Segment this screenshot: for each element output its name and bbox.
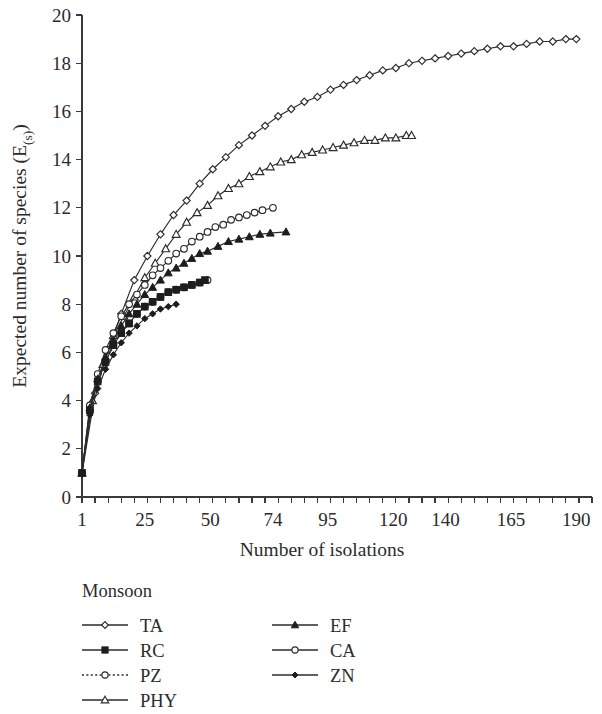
figure-container: 02468101214161820125507495120140165190 N…	[0, 0, 602, 714]
legend-title: Monsoon	[82, 581, 152, 601]
legend-marker-CA	[292, 647, 298, 653]
legend-item-ZN[interactable]: ZN	[272, 666, 355, 686]
y-axis-title: Expected number of species (E(s))	[9, 124, 35, 387]
rarefaction-curve-chart: 02468101214161820125507495120140165190 N…	[0, 0, 602, 714]
x-tick-label: 1	[77, 509, 87, 530]
series-markers-CA	[79, 205, 277, 477]
legend-label-TA: TA	[140, 616, 164, 636]
x-tick-label: 74	[263, 509, 283, 530]
series-markers-TA	[78, 36, 580, 477]
x-tick-label: 25	[135, 509, 154, 530]
y-tick-label: 0	[62, 487, 72, 508]
series-TA	[78, 36, 580, 477]
y-tick-label: 12	[52, 197, 71, 218]
legend-item-TA[interactable]: TA	[82, 616, 164, 636]
y-axis-title-tail: )	[9, 124, 31, 131]
legend-marker-PZ	[102, 672, 108, 678]
x-tick-label: 190	[562, 509, 591, 530]
legend-marker-ZN	[292, 672, 298, 678]
legend-item-PHY[interactable]: PHY	[82, 691, 177, 711]
y-tick-label: 6	[62, 342, 72, 363]
y-axis-title-main: Expected number of species (E	[9, 145, 31, 388]
legend-label-ZN: ZN	[330, 666, 355, 686]
legend-marker-TA	[102, 622, 109, 629]
legend-label-EF: EF	[330, 616, 352, 636]
x-tick-label: 140	[431, 509, 460, 530]
series-layer	[78, 36, 580, 477]
legend-label-PHY: PHY	[140, 691, 177, 711]
legend-label-RC: RC	[140, 641, 165, 661]
x-tick-label: 50	[201, 509, 220, 530]
legend-item-CA[interactable]: CA	[272, 641, 356, 661]
legend-item-PZ[interactable]: PZ	[82, 666, 162, 686]
y-tick-label: 14	[52, 149, 72, 170]
y-tick-label: 4	[62, 390, 72, 411]
y-tick-label: 10	[52, 246, 71, 267]
legend-label-CA: CA	[330, 641, 356, 661]
x-axis-title: Number of isolations	[240, 539, 405, 560]
legend: Monsoon TARCPZPHYEFCAZN	[82, 581, 356, 711]
y-tick-label: 2	[62, 438, 72, 459]
tick-labels-layer: 02468101214161820125507495120140165190	[52, 5, 591, 531]
y-tick-label: 16	[52, 101, 71, 122]
legend-marker-RC	[102, 647, 108, 653]
series-CA	[79, 205, 277, 477]
legend-label-PZ: PZ	[140, 666, 162, 686]
x-tick-label: 120	[379, 509, 408, 530]
y-tick-label: 18	[52, 53, 71, 74]
legend-item-RC[interactable]: RC	[82, 641, 165, 661]
y-tick-label: 20	[52, 5, 71, 26]
x-tick-label: 165	[497, 509, 526, 530]
series-line-TA	[82, 39, 576, 473]
y-axis-title-subscript: (s)	[20, 131, 35, 145]
y-tick-label: 8	[62, 294, 72, 315]
x-tick-label: 95	[318, 509, 337, 530]
legend-item-EF[interactable]: EF	[272, 616, 352, 636]
